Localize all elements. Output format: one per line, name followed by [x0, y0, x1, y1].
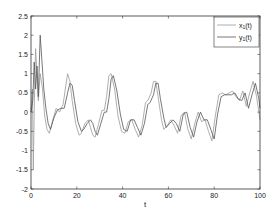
x-tick-label: 20	[73, 192, 81, 199]
y-tick-label: 2.5	[18, 13, 28, 20]
y-tick-label: -0.5	[16, 128, 28, 135]
y-tick-label: -1.5	[16, 166, 28, 173]
y-tick-label: -2	[22, 186, 28, 193]
y-tick-label: 0.5	[18, 89, 28, 96]
x-tick-label: 80	[210, 192, 218, 199]
legend-box	[214, 17, 259, 47]
y-tick-label: 0	[24, 109, 28, 116]
x-tick-label: 60	[165, 192, 173, 199]
y-tick-label: -1	[22, 147, 28, 154]
y-tick-label: 1	[24, 70, 28, 77]
y-tick-label: 2	[24, 32, 28, 39]
x-tick-label: 0	[29, 192, 33, 199]
x-axis-label: t	[144, 200, 147, 209]
x-tick-label: 40	[119, 192, 127, 199]
legend: x1(t)y1(t)	[214, 17, 259, 47]
y-tick-label: 1.5	[18, 51, 28, 58]
line-chart: 020406080100 -2-1.5-1-0.500.511.522.5 t …	[0, 0, 280, 214]
x-tick-label: 100	[254, 192, 266, 199]
